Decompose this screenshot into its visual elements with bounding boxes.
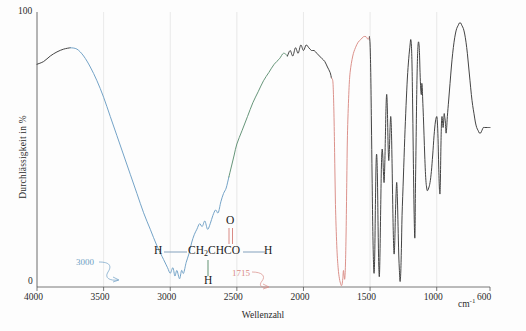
curve-segment — [369, 23, 490, 282]
x-tick-label-600: 600 — [477, 292, 491, 302]
leader-3000-arrow — [113, 277, 119, 282]
y-tick-label-0: 0 — [28, 276, 33, 286]
x-tick-label-2000: 2000 — [290, 292, 309, 302]
structure-right-hydrogen: H — [264, 244, 272, 256]
curve-segment — [37, 48, 70, 65]
y-axis-title: Durchlässigkeit in % — [18, 87, 28, 227]
structure-carbonyl-oxygen: O — [226, 214, 234, 226]
x-axis-title: Wellenzahl — [0, 310, 526, 320]
x-tick-label-1500: 1500 — [357, 292, 376, 302]
backbone-subscript: 2 — [204, 249, 208, 258]
annotation-1715-label: 1715 — [232, 268, 250, 278]
structure-left-hydrogen: H — [154, 244, 162, 256]
x-tick-label-1000: 1000 — [424, 292, 443, 302]
structure-bottom-hydrogen: H — [204, 274, 212, 286]
curve-segment — [287, 45, 331, 78]
y-tick-label-100: 100 — [18, 6, 32, 16]
annotation-3000-label: 3000 — [76, 257, 94, 267]
curve-segment — [331, 36, 369, 285]
leader-3000 — [99, 262, 118, 280]
structure-backbone: CH2CHCO — [188, 244, 240, 258]
curve-segment — [229, 53, 288, 177]
x-tick-label-4000: 4000 — [24, 292, 43, 302]
x-tick-label-3500: 3500 — [91, 292, 110, 302]
x-tick-label-2500: 2500 — [224, 292, 243, 302]
molecular-structure-annotation: H CH2CHCO H H O — [150, 208, 280, 292]
unit-text: cm — [458, 299, 470, 309]
unit-exponent: -1 — [470, 297, 476, 305]
x-tick-label-3000: 3000 — [157, 292, 176, 302]
ir-spectrum-figure: Durchlässigkeit in % Wellenzahl cm-1 400… — [0, 0, 526, 331]
x-axis-unit: cm-1 — [458, 297, 475, 309]
